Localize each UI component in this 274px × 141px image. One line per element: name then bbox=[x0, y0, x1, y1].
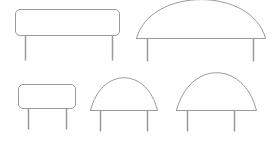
signboard-panel-rounded-rect-large[interactable] bbox=[16, 10, 120, 36]
signboard-panel-rounded-rect-small[interactable] bbox=[19, 85, 76, 109]
sketch-canvas bbox=[0, 0, 274, 141]
sign-top-right[interactable] bbox=[137, 0, 266, 62]
sign-bottom-middle[interactable] bbox=[91, 78, 158, 132]
sign-bottom-left[interactable] bbox=[19, 85, 76, 130]
signboard-panel-arch-large[interactable] bbox=[177, 73, 257, 111]
signboard-sketch-group bbox=[0, 0, 274, 141]
sign-bottom-right[interactable] bbox=[177, 73, 257, 132]
signboard-panel-arch-medium[interactable] bbox=[91, 78, 158, 111]
signboard-panel-arch-wide[interactable] bbox=[137, 0, 266, 39]
sign-top-left[interactable] bbox=[16, 10, 120, 61]
